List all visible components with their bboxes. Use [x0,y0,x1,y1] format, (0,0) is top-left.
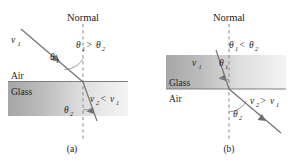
svg-text:θ: θ [229,40,234,50]
svg-text:v: v [270,96,275,106]
svg-text:θ: θ [219,58,224,68]
panel-b-refracted-arrowhead [258,114,267,121]
svg-text:2: 2 [256,101,260,108]
svg-text:1: 1 [18,40,21,47]
panel-a: Normal v 1 θ 1 θ 2 Air Glass θ [8,12,128,155]
svg-text:>: > [261,96,266,106]
svg-text:θ: θ [96,40,101,50]
panel-b-medium-upper-label: Glass [169,78,190,88]
svg-text:θ: θ [64,105,69,115]
svg-text:1: 1 [199,63,202,70]
svg-text:2: 2 [102,45,106,52]
svg-text:1: 1 [56,57,59,64]
refraction-figure: Normal v 1 θ 1 θ 2 Air Glass θ [0,0,290,164]
panel-b-normal-label: Normal [213,12,245,23]
panel-a-incident-speed-label: v 1 [11,35,21,47]
svg-text:2: 2 [255,45,259,52]
panel-a-medium-upper-label: Air [11,71,25,81]
panel-b-angle-relation: θ 1 < θ 2 [229,40,259,52]
svg-text:θ: θ [50,52,55,62]
svg-text:1: 1 [116,99,119,106]
panel-a-medium-lower-label: Glass [11,87,32,97]
panel-a-theta1-label: θ 1 [50,52,59,64]
panel-b-speed-relation: v 2 > v 1 [250,96,279,108]
svg-text:<: < [240,40,245,50]
panel-b-caption: (b) [223,144,234,155]
svg-text:θ: θ [249,40,254,50]
svg-text:1: 1 [82,45,85,52]
panel-b-medium-lower-label: Air [169,94,183,104]
panel-a-angle-relation: θ 1 > θ 2 [76,40,106,52]
panel-b-theta2-label: θ 2 [233,109,243,121]
svg-text:θ: θ [233,109,238,119]
svg-text:1: 1 [276,101,279,108]
panel-a-normal-label: Normal [67,12,99,23]
svg-text:v: v [250,96,255,106]
svg-text:1: 1 [235,45,238,52]
panel-b-theta2-arc [229,101,247,112]
svg-text:2: 2 [239,114,243,121]
svg-text:1: 1 [225,63,228,70]
svg-text:>: > [87,40,92,50]
svg-text:<: < [101,94,106,104]
panel-b: Normal v 1 θ 1 θ 2 Glass Air θ [166,12,286,155]
panel-a-caption: (a) [67,144,78,155]
svg-text:θ: θ [76,40,81,50]
svg-text:v: v [11,35,16,45]
refraction-diagram: Normal v 1 θ 1 θ 2 Air Glass θ [0,0,290,164]
